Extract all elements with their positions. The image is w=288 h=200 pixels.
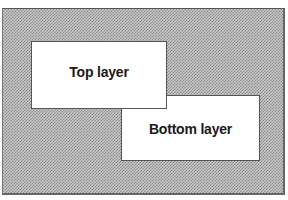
top-layer-box: Top layer [31,41,167,109]
top-layer-label: Top layer [69,64,128,80]
bottom-layer-label: Bottom layer [149,121,232,137]
